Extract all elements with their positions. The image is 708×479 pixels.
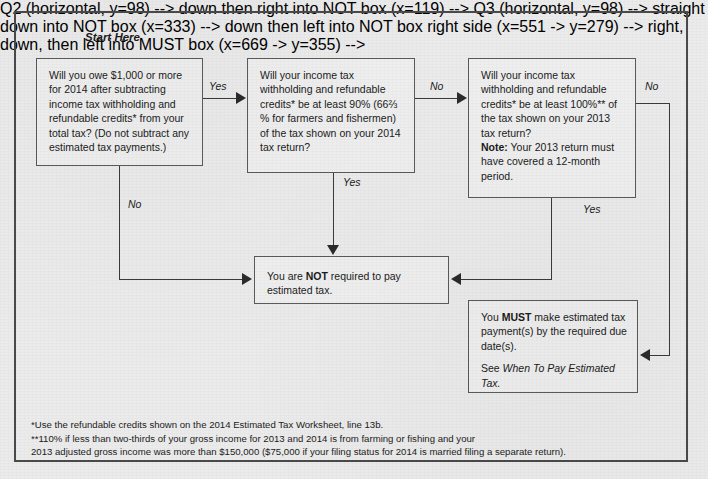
edge-line-q3-yes-vertical <box>551 198 552 280</box>
footnotes: *Use the refundable credits shown on the… <box>31 418 661 459</box>
flowchart-canvas: Start Here Will you owe $1,000 or more f… <box>0 0 708 479</box>
edge-line-q3-no-vertical <box>669 103 670 355</box>
start-here-label: Start Here <box>85 31 140 43</box>
decision-box-100-percent: Will your income tax withholding and ref… <box>468 58 636 198</box>
note-label: Note: <box>481 141 508 153</box>
arrowhead-q1-no <box>242 273 252 285</box>
decision-box-90-percent: Will your income tax withholding and ref… <box>247 58 415 173</box>
arrowhead-q2-yes <box>327 245 339 255</box>
edge-label-no-q2: No <box>430 80 443 92</box>
outcome-box-must-pay: You MUST make estimated tax payment(s) b… <box>468 300 638 393</box>
edge-label-no-q3: No <box>645 80 658 92</box>
outcome-box-must-pay-text: You MUST make estimated tax payment(s) b… <box>481 310 627 353</box>
arrowhead-q3-yes <box>451 273 461 285</box>
edge-line-q2-no <box>415 98 459 99</box>
decision-box-90-percent-text: Will your income tax withholding and ref… <box>260 68 404 154</box>
edge-line-q1-no-horizontal <box>119 279 243 280</box>
arrowhead-q3-no <box>640 349 650 361</box>
see-prefix: See <box>481 362 503 374</box>
must-pay-pre: You <box>481 311 502 323</box>
outcome-box-not-required-text: You are NOT required to pay estimated ta… <box>267 269 438 298</box>
footnote-1: *Use the refundable credits shown on the… <box>31 418 661 432</box>
decision-box-owe-1000: Will you owe $1,000 or more for 2014 aft… <box>36 58 203 166</box>
not-required-pre: You are <box>267 270 306 282</box>
decision-box-100-percent-text: Will your income tax withholding and ref… <box>481 68 625 140</box>
edge-line-q2-yes <box>333 173 334 247</box>
edge-label-yes-q1: Yes <box>209 80 227 92</box>
edge-line-q3-no-top <box>636 103 670 104</box>
arrowhead-q2-no <box>457 92 467 104</box>
not-required-emphasis: NOT <box>306 270 328 282</box>
edge-line-q1-yes <box>203 98 237 99</box>
edge-line-q3-yes-horizontal <box>461 279 552 280</box>
decision-box-100-percent-note: Note: Your 2013 return must have covered… <box>481 140 625 183</box>
must-pay-emphasis: MUST <box>502 311 532 323</box>
edge-label-yes-q2: Yes <box>343 176 361 188</box>
outcome-box-must-pay-reference: See When To Pay Estimated Tax. <box>481 361 627 390</box>
decision-box-owe-1000-text: Will you owe $1,000 or more for 2014 aft… <box>49 68 192 154</box>
edge-label-yes-q3: Yes <box>583 203 601 215</box>
footnote-2: **110% if less than two-thirds of your g… <box>31 432 661 446</box>
edge-line-q3-no-bottom <box>650 355 670 356</box>
outcome-box-not-required: You are NOT required to pay estimated ta… <box>254 256 449 304</box>
arrowhead-q1-yes <box>236 92 246 104</box>
footnote-3: 2013 adjusted gross income was more than… <box>31 445 661 459</box>
edge-label-no-q1: No <box>128 198 141 210</box>
edge-line-q1-no-vertical <box>119 166 120 279</box>
